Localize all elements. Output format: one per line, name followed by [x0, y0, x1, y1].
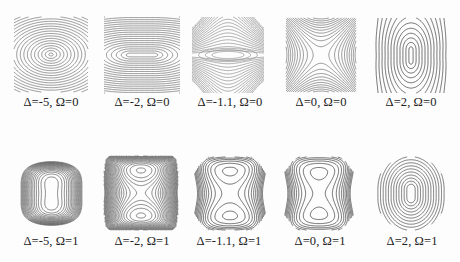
- contour-plot: [14, 17, 88, 92]
- contour-panel: [192, 17, 264, 93]
- contour-lines: [376, 18, 446, 93]
- panel-label: Δ=-2, Ω=1: [114, 234, 169, 249]
- contour-panel: [194, 157, 266, 230]
- contour-plot: [194, 157, 266, 230]
- contour-plot: [376, 18, 446, 93]
- contour-lines: [104, 156, 178, 230]
- contour-lines: [285, 157, 353, 230]
- contour-panel: [286, 18, 356, 92]
- panel-label: Δ=-2, Ω=0: [114, 95, 169, 110]
- contour-lines: [286, 18, 356, 92]
- contour-panel: [14, 17, 88, 92]
- contour-panel: [104, 17, 180, 93]
- contour-plot: [15, 157, 88, 230]
- contour-lines: [14, 17, 88, 92]
- contour-plot: [192, 17, 264, 93]
- panel-label: Δ=-1.1, Ω=0: [198, 95, 263, 110]
- contour-panel: [376, 18, 446, 93]
- contour-panel: [15, 157, 88, 230]
- contour-lines: [195, 157, 266, 230]
- contour-lines: [192, 17, 264, 93]
- contour-panel: [376, 157, 446, 230]
- panel-label: Δ=2, Ω=0: [386, 95, 437, 110]
- contour-panel: [284, 157, 354, 230]
- contour-plot: [104, 17, 180, 93]
- contour-lines: [104, 17, 180, 93]
- contour-plot: [286, 18, 356, 92]
- panel-label: Δ=-1.1, Ω=1: [197, 234, 262, 249]
- contour-lines: [21, 162, 82, 226]
- contour-lines: [378, 157, 444, 230]
- panel-label: Δ=-5, Ω=0: [23, 95, 78, 110]
- contour-plot: [284, 157, 354, 230]
- panel-label: Δ=-5, Ω=1: [23, 234, 78, 249]
- contour-panel: [104, 156, 178, 230]
- contour-plot: [376, 157, 446, 230]
- panel-label: Δ=2, Ω=1: [387, 234, 438, 249]
- panel-label: Δ=0, Ω=0: [296, 95, 347, 110]
- panel-label: Δ=0, Ω=1: [295, 234, 346, 249]
- contour-plot: [104, 156, 178, 230]
